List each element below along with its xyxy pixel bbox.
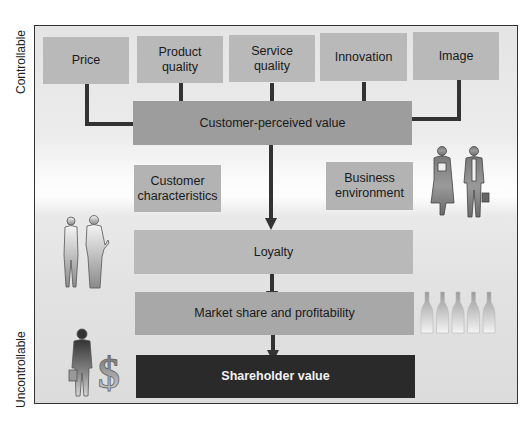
- driver-price: Price: [43, 37, 129, 84]
- customer-characteristics-box: Customer characteristics: [134, 165, 221, 212]
- loyalty-label: Loyalty: [254, 245, 294, 260]
- driver-service-quality-label: Service quality: [242, 44, 302, 74]
- driver-product-quality-label: Product quality: [150, 45, 210, 75]
- connector-product: [179, 83, 183, 103]
- connector-price-h: [85, 122, 135, 126]
- customer-perceived-value-label: Customer-perceived value: [200, 116, 346, 131]
- loyalty-box: Loyalty: [134, 230, 413, 274]
- controllable-label: Controllable: [14, 30, 28, 94]
- customer-perceived-value-box: Customer-perceived value: [133, 101, 412, 145]
- arrowhead-loyalty: [265, 218, 277, 230]
- connector-price: [85, 84, 89, 126]
- market-share-label: Market share and profitability: [194, 306, 355, 321]
- uncontrollable-label: Uncontrollable: [14, 331, 28, 408]
- arrow-cpv-to-loyalty: [269, 145, 273, 221]
- customer-characteristics-label: Customer characteristics: [138, 174, 218, 204]
- shareholder-value-box: Shareholder value: [136, 355, 415, 398]
- connector-image-h: [412, 117, 461, 121]
- market-share-box: Market share and profitability: [135, 292, 414, 335]
- businessman-dollar-icon: $: [68, 328, 128, 398]
- driver-product-quality: Product quality: [137, 36, 223, 83]
- driver-service-quality: Service quality: [229, 35, 315, 82]
- driver-image: Image: [413, 32, 499, 80]
- svg-text:$: $: [98, 349, 120, 398]
- people-left-icon: [60, 215, 120, 290]
- people-right-icon: [428, 145, 496, 220]
- shareholder-value-label: Shareholder value: [221, 369, 329, 384]
- business-environment-box: Business environment: [326, 162, 413, 210]
- connector-service: [270, 83, 274, 103]
- driver-image-label: Image: [439, 49, 474, 64]
- driver-innovation-label: Innovation: [335, 50, 393, 65]
- driver-innovation: Innovation: [320, 33, 407, 81]
- connector-image: [457, 79, 461, 121]
- bottles-icon: [420, 290, 500, 335]
- driver-price-label: Price: [72, 53, 100, 68]
- connector-innovation: [362, 82, 366, 102]
- business-environment-label: Business environment: [330, 171, 410, 201]
